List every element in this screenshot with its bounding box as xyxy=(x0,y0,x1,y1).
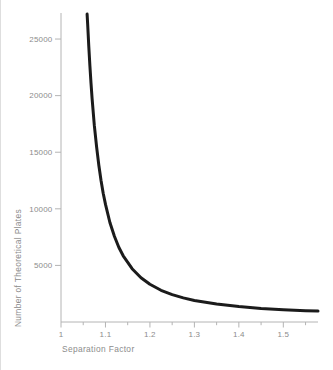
x-tick-label: 1 xyxy=(59,330,64,339)
y-tick-label: 15000 xyxy=(29,148,53,157)
curve-layer xyxy=(87,14,318,311)
chart-canvas: 50001000015000200002500011.11.21.31.41.5… xyxy=(0,0,333,370)
x-tick-label: 1.1 xyxy=(100,330,112,339)
x-tick-label: 1.4 xyxy=(233,330,245,339)
x-tick-label: 1.5 xyxy=(277,330,289,339)
y-tick-label: 10000 xyxy=(29,205,53,214)
y-tick-label: 25000 xyxy=(29,35,53,44)
x-axis-title: Separation Factor xyxy=(62,344,135,354)
y-axis-title: Number of Theoretical Plates xyxy=(13,209,23,327)
curve-line xyxy=(87,14,318,311)
scan-edge-line xyxy=(0,0,1,370)
y-tick-label: 20000 xyxy=(29,91,53,100)
x-tick-label: 1.2 xyxy=(144,330,156,339)
figure: 50001000015000200002500011.11.21.31.41.5… xyxy=(0,0,333,370)
x-tick-label: 1.3 xyxy=(189,330,201,339)
y-tick-label: 5000 xyxy=(34,261,53,270)
